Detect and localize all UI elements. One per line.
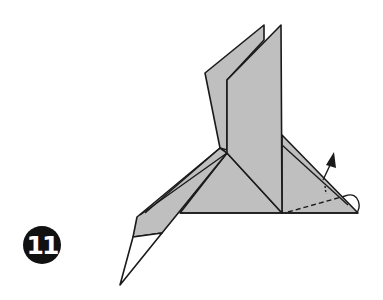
push-up-arrow-icon bbox=[326, 152, 336, 168]
step-number-badge: 11 bbox=[23, 226, 61, 264]
beak bbox=[120, 233, 162, 285]
tail-back-layer bbox=[282, 135, 358, 213]
